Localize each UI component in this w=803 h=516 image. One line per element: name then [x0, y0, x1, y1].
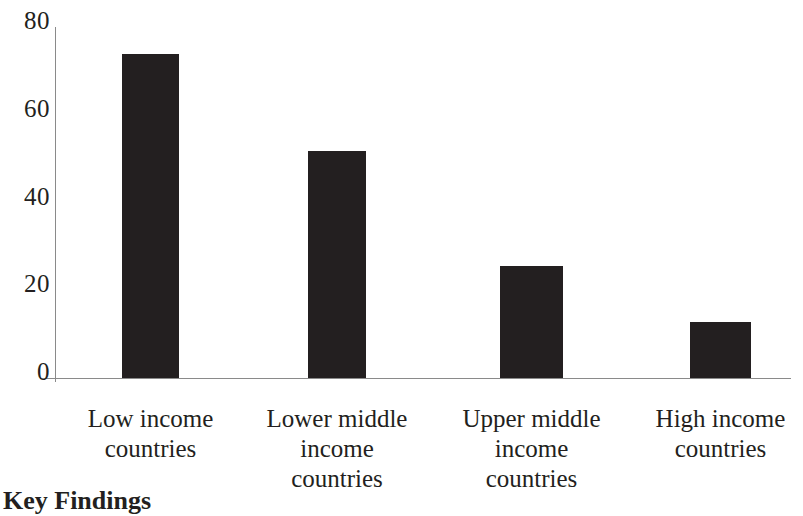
bar-high-income-countries — [690, 322, 751, 378]
category-label-line: Upper middle — [422, 404, 642, 434]
category-label-line: income — [227, 434, 447, 464]
category-label-high-income-countries: High incomecountries — [611, 404, 803, 464]
bar-lower-middle-income-countries — [308, 151, 366, 378]
category-label-line: Lower middle — [227, 404, 447, 434]
bar-upper-middle-income-countries — [500, 266, 563, 378]
x-axis-category-labels: Low incomecountries Lower middleincomeco… — [0, 404, 803, 492]
category-label-line: countries — [422, 464, 642, 494]
bars-layer — [0, 27, 803, 378]
category-label-line: countries — [227, 464, 447, 494]
bar-low-income-countries — [122, 54, 179, 378]
category-label-line: countries — [611, 434, 803, 464]
plot-area: 80 60 40 20 0 — [0, 0, 803, 400]
category-label-line: High income — [611, 404, 803, 434]
x-axis-line — [40, 378, 791, 379]
category-label-line: income — [422, 434, 642, 464]
category-label-upper-middle-income-countries: Upper middleincomecountries — [422, 404, 642, 494]
category-label-lower-middle-income-countries: Lower middleincomecountries — [227, 404, 447, 494]
key-findings-heading: Key Findings — [3, 486, 151, 516]
